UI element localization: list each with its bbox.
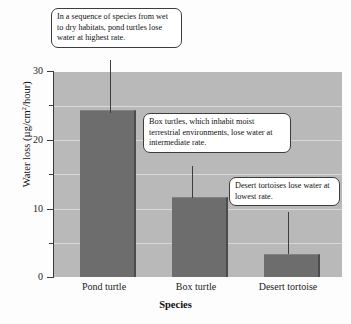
bar-pond-turtle bbox=[80, 110, 136, 277]
y-tick-10 bbox=[47, 209, 53, 210]
bar-chart-figure: 30 20 10 0 Water loss (µg/cm2/hour) Pond… bbox=[0, 0, 351, 324]
leader-line-desert-tortoise bbox=[288, 212, 289, 254]
y-tick-25 bbox=[49, 105, 53, 106]
y-tick-label-0: 0 bbox=[3, 272, 43, 282]
y-axis-line bbox=[53, 71, 54, 278]
y-tick-15 bbox=[49, 174, 53, 175]
y-tick-30 bbox=[47, 71, 53, 72]
y-tick-20 bbox=[47, 140, 53, 141]
box-turtle-callout: Box turtles, which inhabit moist terrest… bbox=[143, 113, 291, 153]
leader-line-box-turtle bbox=[192, 166, 193, 198]
gridline-25 bbox=[54, 106, 342, 107]
x-tick-label-desert-tortoise: Desert tortoise bbox=[230, 281, 346, 292]
y-axis-title-prefix: Water loss (µg/cm bbox=[21, 110, 32, 187]
y-axis-title-superscript: 2 bbox=[20, 107, 28, 111]
plot-area bbox=[54, 72, 342, 277]
x-axis-title: Species bbox=[0, 299, 351, 310]
y-axis-title-suffix: /hour) bbox=[21, 81, 32, 107]
pond-turtle-callout: In a sequence of species from wet to dry… bbox=[51, 8, 182, 48]
y-axis-title: Water loss (µg/cm2/hour) bbox=[20, 39, 33, 229]
leader-line-pond-turtle bbox=[110, 60, 111, 113]
y-tick-0 bbox=[47, 277, 53, 278]
y-tick-5 bbox=[49, 243, 53, 244]
desert-tortoise-callout: Desert tortoises lose water at lowest ra… bbox=[229, 177, 340, 206]
bar-box-turtle bbox=[172, 197, 228, 277]
bar-desert-tortoise bbox=[264, 254, 320, 277]
